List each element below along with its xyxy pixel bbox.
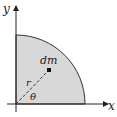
y-axis-label: y	[2, 2, 10, 16]
diagram-canvas: y x dm r θ	[0, 0, 117, 117]
x-axis-label: x	[108, 99, 115, 113]
quarter-disc-diagram: y x dm r θ	[0, 0, 117, 117]
mass-element-point	[47, 68, 51, 72]
angle-label: θ	[30, 91, 36, 102]
mass-element-label: dm	[40, 54, 57, 67]
